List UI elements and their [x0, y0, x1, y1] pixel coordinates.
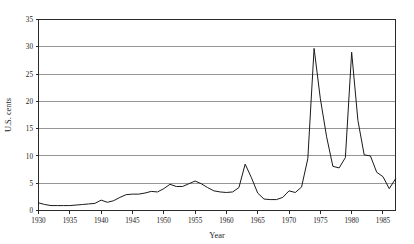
y-tick-label: 20 [26, 98, 34, 106]
y-axis-ticks: 05101520253035 [26, 16, 39, 215]
x-axis-label: Year [209, 231, 225, 240]
x-tick-label: 1930 [31, 217, 46, 225]
y-tick-label: 35 [26, 16, 34, 24]
x-axis-ticks: 1930193519401945195019551960196519701975… [31, 211, 390, 225]
x-tick-label: 1975 [313, 217, 328, 225]
x-tick-label: 1935 [63, 217, 78, 225]
y-tick-label: 0 [29, 207, 33, 215]
y-tick-label: 30 [26, 43, 34, 51]
y-tick-label: 15 [26, 125, 34, 133]
x-tick-label: 1945 [125, 217, 140, 225]
y-axis-label: U.S. cents [4, 98, 13, 132]
x-tick-label: 1970 [282, 217, 297, 225]
x-tick-label: 1940 [94, 217, 109, 225]
x-tick-label: 1955 [188, 217, 203, 225]
x-tick-label: 1985 [376, 217, 391, 225]
x-tick-label: 1950 [157, 217, 172, 225]
gridlines [39, 20, 396, 184]
x-tick-label: 1980 [344, 217, 359, 225]
line-chart: 05101520253035 1930193519401945195019551… [0, 0, 414, 244]
data-series-line [39, 48, 396, 205]
x-tick-label: 1960 [219, 217, 234, 225]
chart-container: 05101520253035 1930193519401945195019551… [0, 0, 414, 244]
y-tick-label: 10 [26, 153, 34, 161]
x-tick-label: 1965 [251, 217, 266, 225]
y-tick-label: 25 [26, 71, 34, 79]
y-tick-label: 5 [29, 180, 33, 188]
axis-frame [39, 20, 396, 211]
